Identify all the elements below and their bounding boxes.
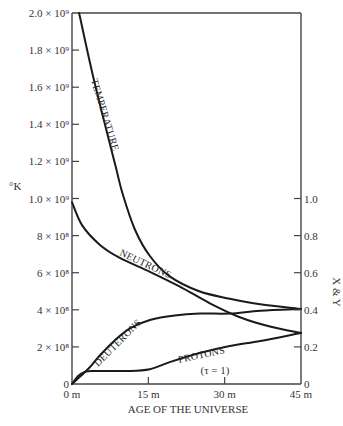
annotation-tau: (τ = 1) bbox=[201, 364, 230, 377]
y-right-tick-label: 0.4 bbox=[304, 304, 318, 316]
y-right-tick-label: 0.8 bbox=[304, 230, 318, 242]
x-tick-label: 15 m bbox=[137, 388, 160, 400]
y-right-tick-label: 0.2 bbox=[304, 341, 318, 353]
label-temperature: TEMPERATURE bbox=[89, 77, 121, 152]
label-deuterons: DEUTERONS bbox=[92, 317, 144, 369]
y-left-tick-label: 4 × 10⁸ bbox=[37, 304, 69, 316]
y-left-tick-label: 1.2 × 10⁹ bbox=[29, 155, 69, 167]
y-left-title: °K bbox=[9, 180, 21, 192]
y-right-tick-label: 1.0 bbox=[304, 193, 318, 205]
y-left-tick-label: 2 × 10⁸ bbox=[37, 341, 69, 353]
y-left-tick-label: 1.6 × 10⁹ bbox=[29, 81, 69, 93]
y-left-tick-label: 1.8 × 10⁹ bbox=[29, 44, 69, 56]
x-tick-label: 30 m bbox=[214, 388, 237, 400]
x-tick-label: 0 m bbox=[64, 388, 81, 400]
chart: 02 × 10⁸4 × 10⁸6 × 10⁸8 × 10⁸1.0 × 10⁹1.… bbox=[0, 0, 343, 426]
y-left-tick-label: 8 × 10⁸ bbox=[37, 230, 69, 242]
y-left-tick-label: 1.0 × 10⁹ bbox=[29, 193, 69, 205]
x-tick-label: 45 m bbox=[290, 388, 313, 400]
y-left-tick-label: 2.0 × 10⁹ bbox=[29, 7, 69, 19]
x-title: AGE OF THE UNIVERSE bbox=[128, 403, 249, 415]
curve-temperature bbox=[79, 13, 301, 309]
y-left-tick-label: 1.4 × 10⁹ bbox=[29, 118, 69, 130]
y-right-tick-label: 0.6 bbox=[304, 267, 318, 279]
y-left-tick-label: 6 × 10⁸ bbox=[37, 267, 69, 279]
label-protons: PROTONS bbox=[177, 344, 226, 365]
label-neutrons: NEUTRONS bbox=[118, 247, 173, 281]
y-right-title: X & Y bbox=[331, 277, 343, 307]
